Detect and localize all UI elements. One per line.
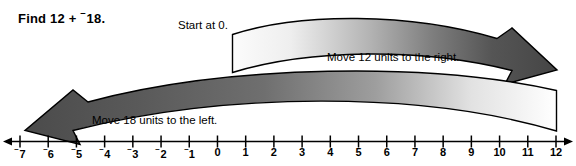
tick-label: 5 [346, 146, 372, 158]
tick-label: 3 [289, 146, 315, 158]
tick-label: ⁻1 [176, 146, 202, 160]
tick-label: 11 [515, 146, 541, 158]
move-right-label: Move 12 units to the right. [327, 51, 459, 63]
tick-label: 6 [374, 146, 400, 158]
negative-sign-glyph: ⁻ [43, 146, 48, 156]
tick-label: 2 [261, 146, 287, 158]
number-line: ⁻7⁻6⁻5⁻4⁻3⁻2⁻10123456789101112 [0, 132, 576, 166]
tick-label: 0 [204, 146, 230, 158]
negative-sign-glyph: ⁻ [127, 146, 132, 156]
tick-label: ⁻6 [35, 146, 61, 160]
axis-right-arrowhead-icon [564, 138, 573, 146]
tick-label: 7 [402, 146, 428, 158]
tick-label: 12 [543, 146, 569, 158]
tick-label: ⁻3 [120, 146, 146, 160]
tick-label: 10 [487, 146, 513, 158]
tick-label: 1 [233, 146, 259, 158]
negative-sign-glyph: ⁻ [71, 146, 76, 156]
axis-left-arrowhead-icon [3, 138, 12, 146]
number-line-diagram: Find 12 + ⁻18. Start at 0. [0, 0, 576, 166]
negative-sign-glyph: ⁻ [99, 146, 104, 156]
tick-label: ⁻5 [63, 146, 89, 160]
move-left-label: Move 18 units to the left. [92, 114, 217, 126]
tick-label: ⁻2 [148, 146, 174, 160]
tick-label: ⁻4 [92, 146, 118, 160]
negative-sign-glyph: ⁻ [14, 146, 19, 156]
tick-label: ⁻7 [7, 146, 33, 160]
tick-label: 9 [458, 146, 484, 158]
negative-sign-glyph: ⁻ [155, 146, 160, 156]
negative-sign-glyph: ⁻ [184, 146, 189, 156]
tick-label: 8 [430, 146, 456, 158]
tick-label: 4 [317, 146, 343, 158]
